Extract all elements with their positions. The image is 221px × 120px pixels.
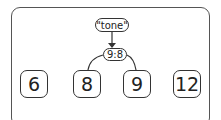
leaf-node-8: 8: [73, 70, 101, 98]
leaf-node-9: 9: [123, 70, 151, 98]
split-node: 9:8: [103, 48, 127, 61]
leaf-node-12: 12: [173, 70, 201, 98]
query-label: "tone": [95, 18, 129, 32]
leaf-node-6: 6: [20, 70, 48, 98]
